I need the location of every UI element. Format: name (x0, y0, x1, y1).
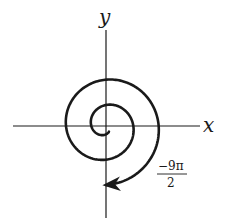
angle-annotation: −9π 2 (157, 159, 187, 190)
annotation-denominator: 2 (167, 176, 175, 190)
y-axis-label: y (98, 5, 111, 29)
spiral-diagram: y x −9π 2 (0, 0, 225, 218)
x-axis-label: x (203, 113, 214, 137)
annotation-numerator: −9π (158, 159, 184, 173)
spiral-curve (66, 79, 159, 185)
